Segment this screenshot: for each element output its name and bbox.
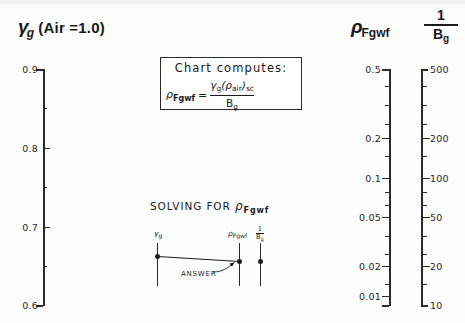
diagram-point-gamma (155, 254, 160, 259)
rho-minor-tick (385, 254, 389, 255)
diagram-inv-bg-label: 1 Bg (256, 226, 264, 242)
rho-major-tick (382, 266, 389, 267)
formula-box-title: Chart computes: (161, 61, 301, 75)
answer-arrowhead (230, 263, 235, 267)
inv-bg-denominator-sub: g (443, 33, 449, 44)
formula-fraction: γg(ρair)sc Bg (210, 79, 254, 112)
inv-bg-minor-tick (423, 124, 427, 125)
inv-bg-tick-label: 20 (430, 261, 464, 272)
inv-bg-numerator: 1 (424, 8, 458, 23)
rho-tick-label: 0.01 (344, 291, 381, 302)
gamma-minor-tick (43, 187, 47, 188)
rho-tick-label: 0.02 (344, 261, 381, 272)
formula-numerator: γg(ρair)sc (210, 79, 254, 94)
rho-tick-label: 0.1 (349, 173, 381, 184)
formula-fraction-bar (210, 95, 254, 96)
gamma-major-tick (43, 227, 50, 228)
rho-major-tick (382, 138, 389, 139)
rho-major-tick (382, 178, 389, 179)
inv-bg-minor-tick (423, 86, 427, 87)
rho-minor-tick (385, 284, 389, 285)
solving-for-text: SOLVING FOR (150, 200, 231, 212)
inv-bg-major-tick (423, 138, 430, 139)
formula-equation: ρFgwf = γg(ρair)sc Bg (166, 79, 298, 112)
rho-tick-label: 0.05 (344, 212, 381, 223)
rho-axis-header: ρFgwf (351, 16, 390, 40)
inv-bg-tick-label: 50 (430, 212, 464, 223)
gamma-tick-label: 0.9 (8, 64, 38, 75)
rho-axis-line (389, 69, 391, 306)
inv-bg-minor-tick (423, 205, 427, 206)
inv-bg-axis-header: 1 Bg (424, 8, 458, 44)
inv-bg-tick-label: 500 (430, 64, 464, 75)
diagram-point-inv-bg (258, 259, 263, 264)
rho-axis-top-cap (382, 69, 389, 71)
diagram-inv-bg-line (260, 243, 261, 286)
solving-for-title: SOLVING FOR ρFgwf (150, 199, 269, 215)
diagram-point-rho (237, 259, 242, 264)
gamma-tick-label: 0.7 (8, 222, 38, 233)
rho-subscript: Fgwf (362, 26, 390, 40)
inv-bg-tick-label: 100 (430, 173, 464, 184)
inv-bg-minor-tick (423, 105, 427, 106)
diagram-gamma-label: γg (154, 229, 162, 239)
rho-tick-label: 0.2 (349, 133, 381, 144)
inv-bg-minor-tick (423, 236, 427, 237)
gamma-minor-tick (43, 108, 47, 109)
inv-bg-minor-tick (423, 254, 427, 255)
inv-bg-major-tick (423, 217, 430, 218)
rho-symbol: ρ (351, 16, 363, 37)
gamma-minor-tick (43, 266, 47, 267)
gas-density-nomograph: γg(Air =1.0) ρFgwf 1 Bg 0.9 0.8 0.7 0.6 … (0, 0, 465, 323)
gamma-tick-label: 0.8 (8, 143, 38, 154)
rho-tick-label: 0.5 (349, 64, 381, 75)
solving-for-rho-symbol: ρ (235, 199, 244, 213)
formula-lhs: ρFgwf (166, 88, 195, 103)
rho-minor-tick (385, 236, 389, 237)
diagram-gamma-line (157, 243, 158, 286)
solving-for-rho-sub: Fgwf (244, 206, 270, 215)
diagram-rho-line (239, 243, 240, 286)
gamma-major-tick (43, 148, 50, 149)
inv-bg-minor-tick (423, 284, 427, 285)
formula-equals-sign: = (198, 89, 207, 102)
diagram-alignment-line (158, 257, 240, 262)
rho-minor-tick (385, 86, 389, 87)
inv-bg-major-tick (423, 266, 430, 267)
inv-bg-minor-tick (423, 192, 427, 193)
rho-major-tick (382, 296, 389, 297)
gamma-tick-label: 0.6 (8, 300, 38, 311)
inv-bg-minor-tick (423, 156, 427, 157)
rho-minor-tick (385, 205, 389, 206)
inv-bg-axis-bottom-cap (421, 305, 428, 307)
formula-denominator: Bg (210, 97, 254, 112)
inv-bg-tick-label: 10 (430, 300, 464, 311)
rho-minor-tick (385, 124, 389, 125)
diagram-connector-overlay (0, 0, 465, 323)
rho-minor-tick (385, 105, 389, 106)
top-edge-band (0, 0, 465, 4)
inv-bg-denominator: Bg (424, 27, 458, 44)
rho-axis-bottom-cap (382, 305, 389, 307)
rho-major-tick (382, 217, 389, 218)
diagram-rho-label: ρFgwf (228, 229, 247, 239)
inv-bg-tick-label: 200 (430, 133, 464, 144)
rho-minor-tick (385, 192, 389, 193)
inv-bg-axis-top-cap (421, 69, 428, 71)
formula-box: Chart computes: ρFgwf = γg(ρair)sc Bg (160, 57, 302, 110)
gamma-subscript: g (27, 26, 35, 40)
gamma-axis-header: γg(Air =1.0) (18, 16, 105, 40)
answer-label: ANSWER (181, 270, 216, 278)
gamma-qualifier: (Air =1.0) (38, 19, 105, 36)
rho-minor-tick (385, 156, 389, 157)
inv-bg-major-tick (423, 178, 430, 179)
